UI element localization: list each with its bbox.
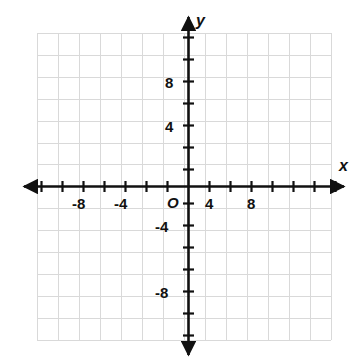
y-axis-label: y	[196, 13, 205, 29]
x-tick-label-8: 8	[247, 196, 255, 211]
y-tick-label-8: 8	[165, 75, 173, 90]
origin-label: O	[167, 195, 179, 210]
coordinate-plane-figure: -8 -4 4 8 O 8 4 -4 -8 y x	[0, 0, 358, 361]
x-tick-label-4: 4	[205, 196, 213, 211]
x-axis-label: x	[339, 158, 348, 174]
y-tick-label-4: 4	[165, 119, 173, 134]
x-tick-label-neg4: -4	[114, 196, 127, 211]
coordinate-plane-svg	[0, 0, 358, 361]
y-tick-label-neg4: -4	[155, 219, 168, 234]
y-tick-label-neg8: -8	[155, 285, 168, 300]
x-tick-label-neg8: -8	[72, 196, 85, 211]
